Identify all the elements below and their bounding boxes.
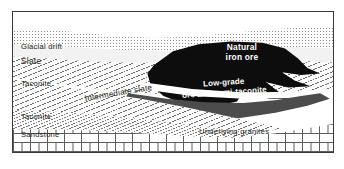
- label-natural-iron-ore: Natural iron ore: [209, 42, 275, 62]
- geological-cross-section-figure: Glacial drift Slate Taconite Intermediat…: [0, 0, 344, 169]
- label-slate: Slate: [21, 57, 41, 65]
- label-natural-iron-ore-line1: Natural: [209, 42, 275, 52]
- label-sandstone: Sandstone: [21, 131, 60, 139]
- label-taconite-upper: Taconite: [21, 80, 51, 88]
- label-natural-iron-ore-line2: iron ore: [209, 52, 275, 62]
- label-glacial-drift: Glacial drift: [21, 43, 62, 51]
- label-taconite-lower: Taconite: [21, 113, 51, 121]
- diagram-frame: Glacial drift Slate Taconite Intermediat…: [12, 11, 334, 153]
- label-underlying-granites: Underlying granites: [199, 128, 269, 136]
